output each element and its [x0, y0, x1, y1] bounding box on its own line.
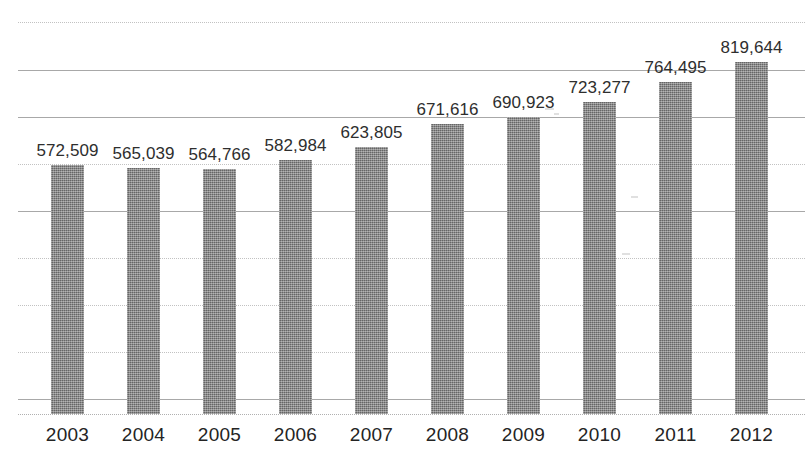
category-axis: 2003200420052006200720082009201020112012 [0, 0, 810, 462]
bar-chart: 572,509565,039564,766582,984623,805671,6… [0, 0, 810, 462]
category-label-2012: 2012 [697, 424, 807, 446]
